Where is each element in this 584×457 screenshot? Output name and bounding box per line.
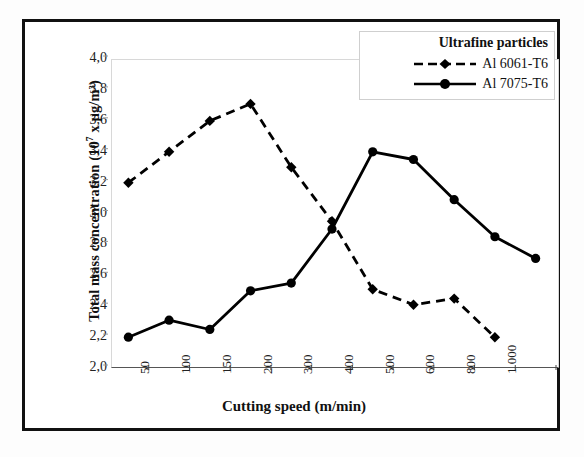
y-axis-title-prefix: Total mass concentration (10 <box>86 141 102 322</box>
chart-legend: Ultrafine particles Al 6061-T6 Al 7075-T… <box>359 31 555 100</box>
legend-key-solid-circle <box>412 77 478 91</box>
y-axis-title: Total mass concentration (107 x µg/m³) <box>85 36 103 366</box>
legend-item-al-7075-t6[interactable]: Al 7075-T6 <box>366 74 548 94</box>
x-axis-title: Cutting speed (m/min) <box>25 398 563 415</box>
x-tick-label: 150 <box>219 355 235 375</box>
x-tick-label: 300 <box>300 355 316 375</box>
chart-frame: 4,03,83,63,43,23,02,82,62,42,22,0 Total … <box>22 19 560 431</box>
legend-label-al-7075-t6: Al 7075-T6 <box>482 76 548 92</box>
legend-label-al-6061-t6: Al 6061-T6 <box>482 56 548 72</box>
plot-area <box>111 59 559 368</box>
x-tick-label: 400 <box>341 355 357 375</box>
x-tick-label: 600 <box>422 355 438 375</box>
y-axis-title-suffix: x µg/m³) <box>86 80 102 136</box>
legend-key-dashed-diamond <box>412 57 478 71</box>
figure-container: 4,03,83,63,43,23,02,82,62,42,22,0 Total … <box>0 0 584 457</box>
x-tick-label: 100 <box>178 355 194 375</box>
x-tick-label: 1 000 <box>504 345 520 374</box>
x-tick-label: 200 <box>260 355 276 375</box>
x-tick-label: 800 <box>463 355 479 375</box>
x-tick-label: 500 <box>382 355 398 375</box>
x-tick-label: 50 <box>137 361 153 374</box>
legend-title: Ultrafine particles <box>366 35 548 51</box>
legend-item-al-6061-t6[interactable]: Al 6061-T6 <box>366 54 548 74</box>
y-axis-title-exponent: 7 <box>85 136 95 141</box>
